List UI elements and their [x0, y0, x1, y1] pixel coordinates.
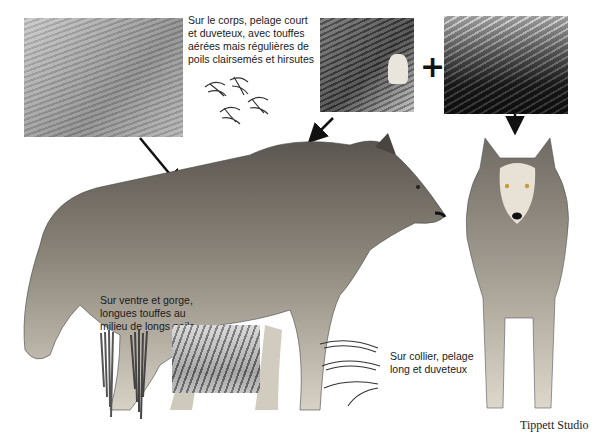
collar-fur-caption: Sur collier, pelage long et duveteux: [390, 350, 500, 376]
belly-fur-closeup-image: [172, 325, 260, 393]
studio-credit: Tippett Studio: [520, 418, 589, 433]
collar-hair-strands-illustration: [318, 336, 383, 411]
belly-hair-tufts-illustration: [95, 327, 165, 422]
